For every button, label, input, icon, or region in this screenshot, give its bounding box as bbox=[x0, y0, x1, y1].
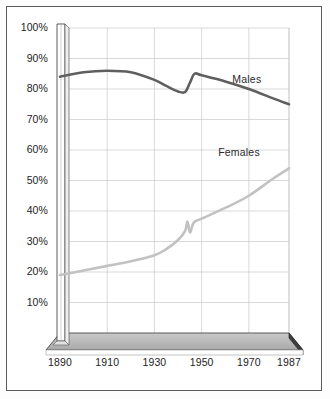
y-axis-tick-labels: 10%20%30%40%50%60%70%80%90%100% bbox=[6, 0, 54, 399]
x-tick-label: 1910 bbox=[81, 356, 133, 368]
y-tick-label: 80% bbox=[27, 82, 48, 94]
series-label-females: Females bbox=[218, 146, 260, 158]
y-tick-label: 20% bbox=[27, 265, 48, 277]
chart-figure: 10%20%30%40%50%60%70%80%90%100% 18901910… bbox=[0, 0, 330, 399]
x-tick-label: 1987 bbox=[263, 356, 315, 368]
y-tick-label: 10% bbox=[27, 296, 48, 308]
x-tick-label: 1950 bbox=[176, 356, 228, 368]
y-axis-bar-3d bbox=[53, 24, 69, 345]
series-label-males: Males bbox=[232, 73, 261, 85]
y-tick-label: 50% bbox=[27, 174, 48, 186]
y-tick-label: 90% bbox=[27, 52, 48, 64]
axis-floor-3d bbox=[46, 333, 303, 355]
y-tick-label: 70% bbox=[27, 113, 48, 125]
y-tick-label: 30% bbox=[27, 235, 48, 247]
y-tick-label: 40% bbox=[27, 204, 48, 216]
x-tick-label: 1890 bbox=[34, 356, 86, 368]
y-tick-label: 100% bbox=[21, 21, 48, 33]
x-tick-label: 1930 bbox=[128, 356, 180, 368]
y-tick-label: 60% bbox=[27, 143, 48, 155]
